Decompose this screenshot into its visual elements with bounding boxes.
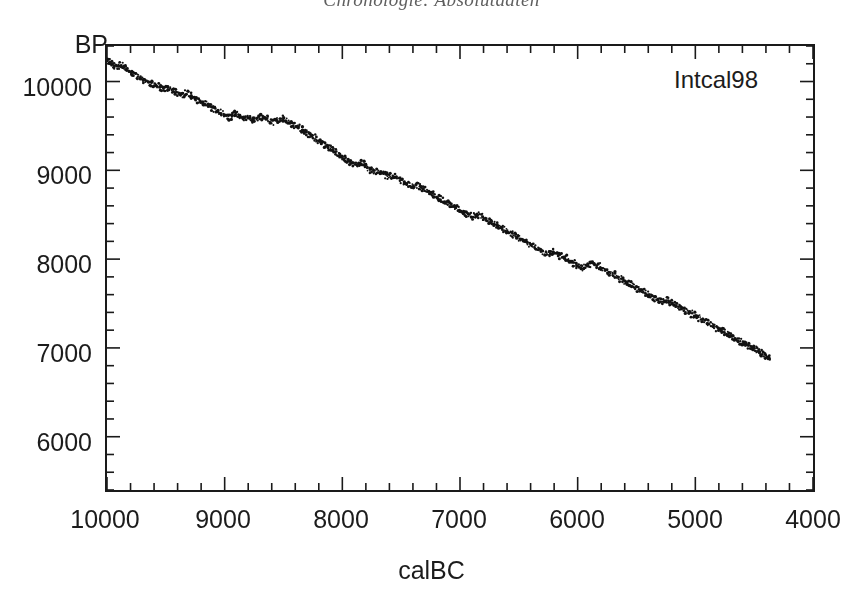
plot-area: Intcal98 (105, 44, 815, 492)
x-tick-label-6000: 6000 (522, 505, 632, 534)
data-point-layer (107, 58, 771, 361)
y-tick-label-9000: 9000 (0, 161, 92, 190)
plot-svg (107, 46, 813, 490)
series-annotation-label: Intcal98 (674, 66, 758, 94)
x-tick-label-8000: 8000 (286, 505, 396, 534)
x-tick-label-4000: 4000 (758, 505, 863, 534)
y-tick-label-10000: 10000 (0, 73, 92, 102)
x-axis-title: calBC (0, 556, 863, 585)
y-tick-label-6000: 6000 (0, 428, 92, 457)
x-tick-label-7000: 7000 (404, 505, 514, 534)
x-tick-label-10000: 10000 (50, 505, 160, 534)
x-tick-label-9000: 9000 (168, 505, 278, 534)
y-axis-title: BP (58, 30, 108, 59)
y-tick-label-7000: 7000 (0, 339, 92, 368)
calibration-curve-figure: BP 10000 9000 8000 7000 6000 10000 9000 … (0, 0, 863, 602)
y-tick-label-8000: 8000 (0, 250, 92, 279)
x-tick-label-5000: 5000 (640, 505, 750, 534)
